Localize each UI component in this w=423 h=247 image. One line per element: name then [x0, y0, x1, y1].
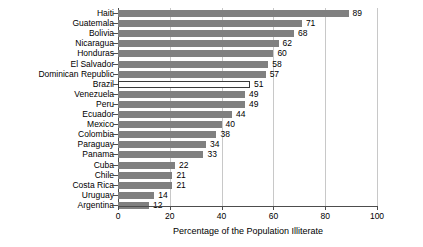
value-label: 49	[249, 89, 258, 99]
bar	[118, 71, 266, 78]
bar	[118, 162, 175, 169]
bar-row: Venezuela49	[0, 90, 423, 100]
bar-row: Brazil51	[0, 80, 423, 90]
bar-row: Cuba22	[0, 161, 423, 171]
x-tick-60	[273, 206, 274, 210]
category-label: Chile	[95, 170, 114, 180]
value-label: 14	[158, 190, 167, 200]
bar	[118, 101, 245, 108]
value-label: 38	[220, 129, 229, 139]
value-label: 51	[254, 79, 263, 89]
bar	[118, 40, 279, 47]
bar	[118, 141, 206, 148]
bar	[118, 121, 222, 128]
bar-row: Panama33	[0, 150, 423, 160]
value-label: 34	[210, 139, 219, 149]
bar-row: Chile21	[0, 171, 423, 181]
x-tick-label: 80	[305, 211, 345, 221]
value-label: 57	[270, 69, 279, 79]
value-label: 68	[298, 28, 307, 38]
bar-row: Ecuador44	[0, 110, 423, 120]
bar-row: Costa Rica21	[0, 181, 423, 191]
category-label: Colombia	[78, 129, 114, 139]
category-label: Nicaragua	[75, 38, 114, 48]
value-label: 12	[153, 200, 162, 210]
bar	[118, 50, 273, 57]
category-label: Venezuela	[74, 89, 114, 99]
bar-row: Honduras60	[0, 49, 423, 59]
x-tick-label: 40	[202, 211, 242, 221]
x-tick-100	[377, 206, 378, 210]
category-label: Cuba	[94, 160, 114, 170]
value-label: 33	[207, 149, 216, 159]
x-tick-20	[170, 206, 171, 210]
category-label: El Salvador	[71, 59, 114, 69]
category-label: Guatemala	[72, 18, 114, 28]
x-tick-80	[325, 206, 326, 210]
x-axis-title: Percentage of the Population Illiterate	[118, 226, 378, 236]
bar-row: Mexico40	[0, 120, 423, 130]
bar	[118, 192, 154, 199]
value-label: 58	[272, 59, 281, 69]
bar-row: Haiti89	[0, 9, 423, 19]
bar	[118, 61, 268, 68]
value-label: 44	[236, 109, 245, 119]
bar	[118, 151, 203, 158]
bar	[118, 131, 216, 138]
bar	[118, 10, 349, 17]
bar-row: Nicaragua62	[0, 39, 423, 49]
category-label: Costa Rica	[72, 180, 114, 190]
x-tick-label: 0	[98, 211, 138, 221]
category-label: Dominican Republic	[38, 69, 114, 79]
bar	[118, 111, 232, 118]
category-label: Brazil	[93, 79, 114, 89]
category-label: Bolivia	[89, 28, 114, 38]
illiteracy-bar-chart: Haiti89Guatemala71Bolivia68Nicaragua62Ho…	[0, 0, 423, 247]
bar	[118, 172, 172, 179]
category-label: Ecuador	[82, 109, 114, 119]
x-tick-label: 20	[150, 211, 190, 221]
category-label: Haiti	[97, 8, 114, 18]
bar	[118, 81, 250, 88]
plot-area: Haiti89Guatemala71Bolivia68Nicaragua62Ho…	[0, 0, 423, 247]
x-axis-line	[118, 206, 378, 207]
bar	[118, 20, 302, 27]
value-label: 62	[283, 38, 292, 48]
x-tick-label: 60	[253, 211, 293, 221]
bar-row: Peru49	[0, 100, 423, 110]
bar-row: Bolivia68	[0, 29, 423, 39]
category-label: Uruguay	[82, 190, 114, 200]
x-tick-0	[118, 206, 119, 210]
bar	[118, 182, 172, 189]
category-label: Paraguay	[78, 139, 114, 149]
category-label: Peru	[96, 99, 114, 109]
bar	[118, 30, 294, 37]
value-label: 40	[226, 119, 235, 129]
value-label: 60	[277, 48, 286, 58]
category-label: Argentina	[78, 200, 114, 210]
bar-row: Uruguay14	[0, 191, 423, 201]
bar	[118, 91, 245, 98]
value-label: 49	[249, 99, 258, 109]
category-label: Panama	[82, 149, 114, 159]
value-label: 21	[176, 170, 185, 180]
value-label: 21	[176, 180, 185, 190]
value-label: 89	[353, 8, 362, 18]
value-label: 22	[179, 160, 188, 170]
bar-row: Guatemala71	[0, 19, 423, 29]
x-tick-40	[222, 206, 223, 210]
category-label: Honduras	[77, 48, 114, 58]
bar-row: Dominican Republic57	[0, 70, 423, 80]
x-tick-label: 100	[357, 211, 397, 221]
value-label: 71	[306, 18, 315, 28]
category-label: Mexico	[87, 119, 114, 129]
